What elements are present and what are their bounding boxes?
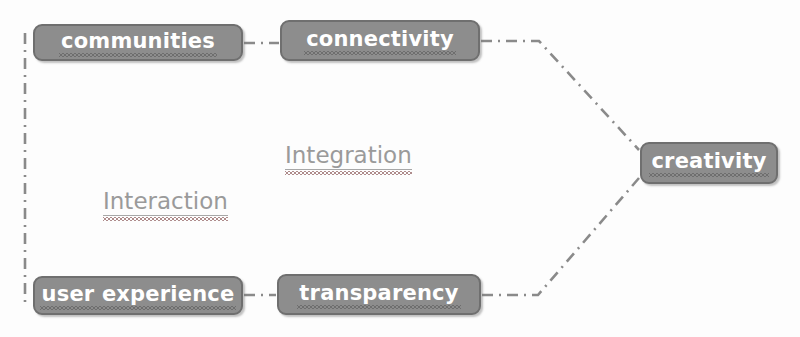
node-user-experience[interactable]: user experience <box>33 276 243 315</box>
node-creativity[interactable]: creativity <box>640 142 778 184</box>
node-communities-label: communities <box>61 31 215 55</box>
center-label-interaction: Interaction <box>103 190 228 220</box>
node-communities[interactable]: communities <box>33 24 243 61</box>
connector-connectivity-creativity <box>481 41 639 150</box>
diagram-canvas: communities connectivity creativity user… <box>0 0 800 337</box>
node-connectivity[interactable]: connectivity <box>280 20 480 61</box>
node-user-experience-label: user experience <box>42 284 235 308</box>
center-label-integration: Integration <box>285 144 412 174</box>
center-label-integration-text: Integration <box>285 144 412 170</box>
node-transparency-label: transparency <box>299 283 458 307</box>
connector-transparency-creativity <box>482 178 639 295</box>
center-label-interaction-text: Interaction <box>103 190 228 216</box>
node-creativity-label: creativity <box>651 151 766 175</box>
node-transparency[interactable]: transparency <box>277 274 481 315</box>
node-connectivity-label: connectivity <box>306 29 454 53</box>
